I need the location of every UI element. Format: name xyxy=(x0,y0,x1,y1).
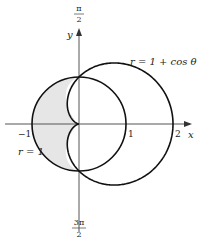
y-axis-arrow-icon xyxy=(76,28,82,36)
y-axis-label: y xyxy=(66,29,73,40)
x-axis-label: x xyxy=(188,129,194,140)
circle-label: r = 1 xyxy=(18,146,44,157)
polar-diagram: y x −1 1 2 π 2 3π 2 r = 1 + cos θ r = 1 xyxy=(0,0,198,242)
tick-label-1: 1 xyxy=(128,129,134,139)
cardioid-label: r = 1 + cos θ xyxy=(130,56,197,67)
tick-label-neg1: −1 xyxy=(18,129,31,139)
angle-bottom-numerator: 3π xyxy=(74,218,84,227)
angle-top-numerator: π xyxy=(76,4,81,13)
x-axis-arrow-icon xyxy=(184,121,192,127)
angle-top-denominator: 2 xyxy=(76,15,81,24)
tick-label-2: 2 xyxy=(175,129,181,139)
angle-bottom-denominator: 2 xyxy=(76,230,81,239)
